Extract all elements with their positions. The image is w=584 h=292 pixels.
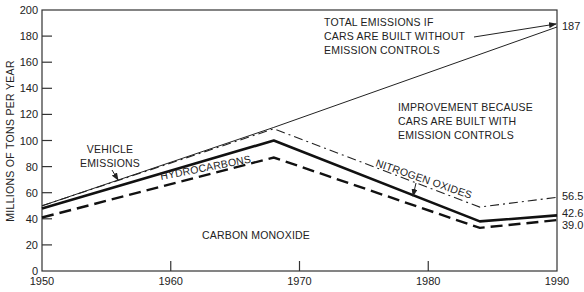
- annotation-improvement-line2: CARS ARE BUILT WITH: [398, 115, 516, 127]
- emissions-chart: 0204060801001201401601802001950196019701…: [0, 0, 584, 292]
- y-tick-label: 160: [20, 56, 38, 68]
- y-tick-label: 20: [26, 239, 38, 251]
- annotation-improvement-line1: IMPROVEMENT BECAUSE: [398, 101, 533, 113]
- annotation-total-line2: CARS ARE BUILT WITHOUT: [324, 30, 465, 42]
- annotation-total-line3: EMISSION CONTROLS: [324, 44, 440, 56]
- x-tick-label: 1990: [545, 275, 569, 287]
- x-tick-label: 1980: [416, 275, 440, 287]
- series-group: [42, 27, 557, 228]
- x-tick-label: 1950: [30, 275, 54, 287]
- y-tick-label: 180: [20, 30, 38, 42]
- y-tick-label: 60: [26, 187, 38, 199]
- annotation-nitrogen-oxides: NITROGEN OXIDES: [374, 157, 473, 201]
- annotation-carbon-monoxide: CARBON MONOXIDE: [202, 229, 310, 241]
- y-tick-label: 100: [20, 135, 38, 147]
- end-label-carbon: 39.0: [562, 219, 583, 231]
- annotation-total-line1: TOTAL EMISSIONS IF: [324, 16, 434, 28]
- arrow-nitrogen-oxides: [413, 183, 416, 196]
- y-tick-label: 120: [20, 108, 38, 120]
- arrow-total-emissions: [474, 24, 556, 37]
- y-tick-label: 140: [20, 82, 38, 94]
- labels-group: MILLIONS OF TONS PER YEAR TOTAL EMISSION…: [4, 16, 583, 241]
- x-tick-label: 1960: [159, 275, 183, 287]
- annotation-improvement-line3: EMISSION CONTROLS: [398, 129, 514, 141]
- y-tick-label: 40: [26, 213, 38, 225]
- y-tick-label: 80: [26, 161, 38, 173]
- end-label-total: 187: [562, 20, 580, 32]
- y-tick-label: 200: [20, 4, 38, 16]
- end-label-hydrocarbons: 42.6: [562, 207, 583, 219]
- annotation-vehicle-line1: VEHICLE: [87, 143, 133, 155]
- annotation-vehicle-line2: EMISSIONS: [80, 157, 140, 169]
- x-tick-label: 1970: [287, 275, 311, 287]
- end-label-nitrogen: 56.5: [562, 190, 583, 202]
- y-axis-label: MILLIONS OF TONS PER YEAR: [4, 60, 16, 222]
- arrow-vehicle-emissions: [112, 170, 118, 180]
